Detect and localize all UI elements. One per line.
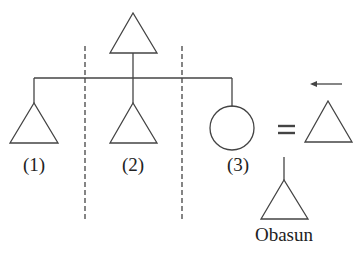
spouse-triangle-icon <box>305 101 352 142</box>
child1-label: (1) <box>23 154 45 176</box>
child3-label: (3) <box>227 154 249 176</box>
parent-triangle-icon <box>110 13 157 53</box>
obasun-triangle-icon <box>261 180 308 219</box>
child2-triangle-icon <box>110 103 157 143</box>
arrow-head <box>310 81 317 87</box>
child3-circle-icon <box>210 106 254 150</box>
child1-triangle-icon <box>10 103 58 143</box>
kinship-diagram: (1) (2) (3) Obasun <box>0 0 362 254</box>
obasun-label: Obasun <box>255 224 313 246</box>
diagram-canvas <box>0 0 362 254</box>
child2-label: (2) <box>122 154 144 176</box>
